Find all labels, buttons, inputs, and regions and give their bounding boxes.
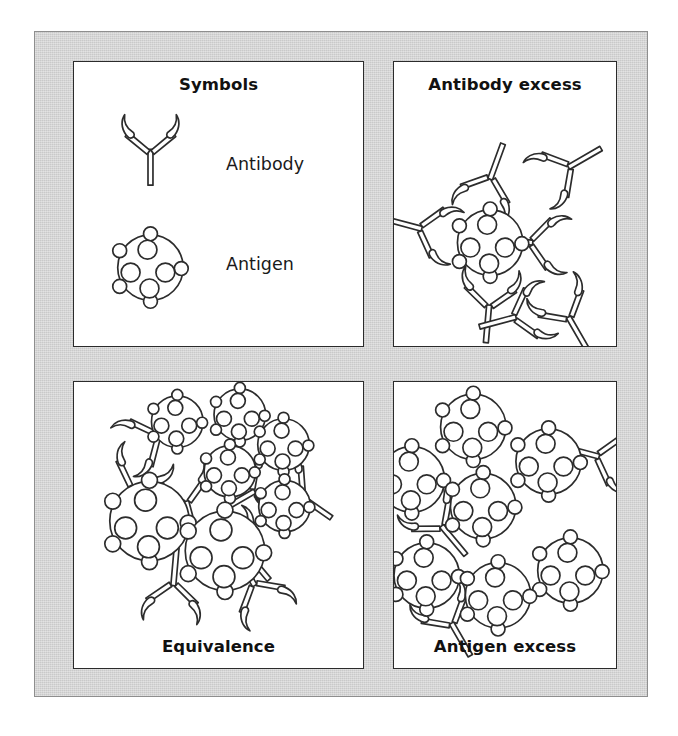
- figure-frame: Symbols: [34, 31, 648, 697]
- panel-antibody-excess: Antibody excess: [393, 61, 617, 347]
- panel-antigen-excess-title: Antigen excess: [394, 637, 616, 656]
- panel-equivalence-title: Equivalence: [74, 637, 363, 656]
- panel-equivalence: Equivalence: [73, 381, 364, 669]
- antigen-excess-graphic: [394, 382, 616, 668]
- antigen: [533, 530, 609, 611]
- antigen: [436, 386, 512, 467]
- panel-antigen-excess: Antigen excess: [393, 381, 617, 669]
- antigen: [255, 474, 315, 539]
- legend-antigen-icon: [113, 227, 188, 308]
- legend-label-antigen: Antigen: [226, 254, 294, 274]
- free-antibody: [522, 123, 616, 211]
- panel-symbols: Symbols: [73, 61, 364, 347]
- antigen: [511, 421, 587, 502]
- equivalence-graphic: [74, 382, 363, 668]
- symbols-panel-graphic: [74, 62, 363, 346]
- antigen: [446, 466, 522, 547]
- antigen: [394, 535, 465, 616]
- antigen: [105, 472, 196, 569]
- legend-antibody-icon: [122, 115, 179, 186]
- antibody-excess-graphic: [394, 62, 616, 346]
- legend-label-antibody: Antibody: [226, 154, 304, 174]
- antigen: [460, 555, 536, 636]
